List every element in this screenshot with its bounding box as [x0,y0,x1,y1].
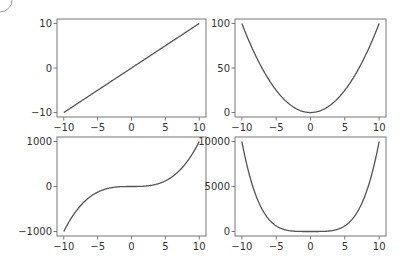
x-tick-label: 5 [162,241,168,252]
axes-frame [235,19,386,117]
x-tick-label: −10 [53,122,74,133]
y-tick-label: 100 [211,18,230,29]
subplot-quartic: −10−505100500010000 [198,136,386,252]
x-tick-label: 5 [342,122,348,133]
data-line [64,23,199,112]
x-tick-label: 10 [193,122,206,133]
y-tick-label: 10 [39,18,52,29]
x-tick-label: 0 [128,241,134,252]
y-tick-label: −1000 [18,226,52,237]
y-tick-label: −10 [31,107,52,118]
x-tick-label: 5 [162,122,168,133]
data-line [64,142,199,232]
y-tick-label: 50 [217,63,230,74]
x-tick-label: 10 [373,122,386,133]
subplot-cubic: −10−50510−100001000 [18,136,206,252]
x-tick-label: −10 [231,122,252,133]
y-tick-label: 0 [224,107,230,118]
y-tick-label: 0 [46,63,52,74]
x-tick-label: −5 [269,122,284,133]
x-tick-label: −5 [90,241,105,252]
x-tick-label: −5 [90,122,105,133]
y-tick-label: 1000 [27,136,52,147]
x-tick-label: 0 [307,122,313,133]
data-line [242,142,379,232]
data-line [242,23,379,112]
x-tick-label: 10 [193,241,206,252]
x-tick-label: 0 [128,122,134,133]
subplot-linear: −10−50510−10010 [31,18,206,133]
y-tick-label: 10000 [198,136,230,147]
y-tick-label: 0 [46,181,52,192]
subplots-grid: −10−50510−10010−10−50510050100−10−50510−… [18,18,386,252]
x-tick-label: −5 [269,241,284,252]
x-tick-label: 5 [342,241,348,252]
axes-frame [235,137,386,236]
x-tick-label: 0 [307,241,313,252]
y-tick-label: 0 [224,226,230,237]
x-tick-label: 10 [373,241,386,252]
subplot-quadratic: −10−50510050100 [211,18,386,133]
figure: −10−50510−10010−10−50510050100−10−50510−… [0,0,407,266]
x-tick-label: −10 [53,241,74,252]
x-tick-label: −10 [231,241,252,252]
y-tick-label: 5000 [205,181,230,192]
corner-arc-decoration [0,0,12,12]
